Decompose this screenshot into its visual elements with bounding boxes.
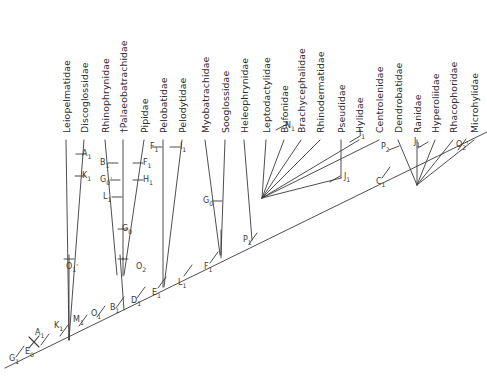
node-subscript: 0 (209, 200, 213, 207)
node-subscript: 1 (291, 125, 295, 132)
taxon-label-rhacophoridae: Rhacophoridae (449, 62, 458, 133)
taxon-label-leiopelmatidae: Leiopelmatidae (62, 60, 71, 133)
node-subscript: 1 (15, 358, 19, 365)
node-subscript: 2 (142, 266, 146, 273)
node-label-F1b: F1 (143, 159, 152, 167)
node-label-E1: E1 (152, 289, 161, 297)
taxon-label-leptodactylidae: Leptodactylidae (262, 57, 271, 133)
node-label-G0c: G0 (203, 197, 213, 205)
node-label-I1b: I1 (359, 130, 365, 138)
node-label-A1b: A1 (35, 329, 44, 337)
node-subscript: 1 (116, 307, 120, 314)
node-subscript: 1 (248, 239, 252, 246)
branch-pelodytidae (164, 140, 182, 287)
taxon-label-centrolenidae: Centrolenidae (375, 67, 384, 133)
node-label-N1: N1 (285, 122, 295, 130)
node-subscript: 1 (182, 282, 186, 289)
node-prime: ' (110, 176, 112, 184)
node-label-E0: E0 (25, 348, 34, 356)
taxon-label-hyperoliidae: Hyperoliidae (431, 73, 440, 133)
tree-branches (5, 124, 487, 368)
node-subscript: 1 (346, 176, 350, 183)
node-label-O1b: O1 (91, 310, 101, 318)
node-label-O1p: O1' (66, 263, 78, 271)
node-label-F1top: F1 (150, 143, 159, 151)
node-subscript: 1 (182, 146, 186, 153)
taxon-label-sooglossidae: Sooglossidae (221, 71, 230, 133)
node-label-O2v: O2 (136, 263, 146, 271)
node-subscript: 1 (137, 300, 141, 307)
branch-heleophrynidae (244, 140, 252, 240)
tick-P2 (389, 146, 399, 150)
branch-tickmarks (64, 124, 466, 259)
taxon-label-dendrobatidae: Dendrobatidae (394, 63, 403, 133)
taxon-label-microhylidae: Microhylidae (470, 73, 479, 133)
node-subscript: 1 (40, 332, 44, 339)
tick-F1c (210, 252, 218, 263)
node-label-D1: D1 (131, 297, 141, 305)
node-subscript: 1 (382, 181, 386, 188)
node-subscript: 2 (386, 146, 390, 153)
node-label-P1: P1 (243, 236, 252, 244)
branch-pipidae (124, 140, 144, 275)
node-prime: ' (76, 263, 78, 271)
node-subscript: 1 (107, 196, 111, 203)
taxon-label-palaeobatrachidae: †Palaeobatrachidae (119, 40, 128, 133)
branch-sooglossidae (221, 140, 225, 255)
taxon-label-pelodytidae: Pelodytidae (178, 78, 187, 133)
node-label-K1: K1 (82, 172, 91, 180)
node-label-J1a: J1 (344, 173, 350, 181)
tick-E0-cross (29, 336, 39, 348)
node-subscript: 0 (128, 228, 132, 235)
tick-C1 (382, 167, 390, 178)
branch-centrolenidae (262, 140, 379, 198)
taxon-label-ranidae: Ranidae (413, 95, 422, 133)
branch-dendrobatidae (398, 140, 417, 185)
taxon-label-heleophrynidae: Heleophrynidae (240, 58, 249, 133)
node-subscript: 1 (416, 141, 420, 148)
branch-hylidae (262, 140, 359, 198)
node-label-F1c: F1 (204, 263, 213, 271)
node-label-L1: L1 (103, 193, 111, 201)
node-label-O2p: O2' (456, 141, 468, 149)
taxon-label-pipidae: Pipidae (140, 99, 149, 134)
node-subscript: 1 (209, 266, 213, 273)
node-subscript: 1 (87, 153, 91, 160)
node-prime: ' (466, 141, 468, 149)
node-label-B1: B1 (100, 159, 109, 167)
tick-L1b (184, 265, 192, 276)
taxon-label-pseudidae: Pseudidae (337, 84, 346, 133)
node-subscript: 1 (106, 162, 110, 169)
node-label-K1b: K1 (54, 322, 63, 330)
node-label-C1: C1 (376, 178, 386, 186)
node-label-G1: G1 (9, 355, 19, 363)
branch-discoglossidae (69, 140, 84, 340)
node-label-A1: A1 (82, 150, 91, 158)
node-label-I1a: I1 (180, 143, 186, 151)
node-subscript: 1 (155, 146, 159, 153)
node-letter: M (73, 315, 80, 324)
node-label-P2: P2 (381, 143, 390, 151)
node-subscript: 1 (157, 292, 161, 299)
node-label-B1b: B1 (110, 304, 119, 312)
taxon-label-myobatrachidae: Myobatrachidae (201, 57, 210, 133)
node-subscript: 1 (97, 313, 101, 320)
node-label-H1: H1 (143, 176, 153, 184)
branch-rhacophoridae (417, 140, 453, 185)
node-subscript: 1 (80, 319, 84, 326)
node-subscript: 1 (59, 325, 63, 332)
node-subscript: 1 (148, 162, 152, 169)
taxon-label-rhinophrynidae: Rhinophrynidae (101, 58, 110, 133)
taxon-label-pelobatidae: Pelobatidae (159, 77, 168, 133)
taxon-label-rhinodermatidae: Rhinodermatidae (316, 51, 325, 133)
node-label-G0a: G0' (100, 176, 112, 184)
taxon-label-brachycephalidae: Brachycephalidae (297, 48, 306, 133)
node-label-G0b: G0 (122, 225, 132, 233)
node-label-M1: M1 (73, 316, 84, 324)
node-subscript: 1 (361, 133, 365, 140)
figure-canvas: LeiopelmatidaeDiscoglossidaeRhinophrynid… (0, 0, 487, 385)
node-subscript: 1 (87, 175, 91, 182)
node-subscript: 1 (149, 179, 153, 186)
node-label-L1b: L1 (178, 279, 186, 287)
taxon-label-discoglossidae: Discoglossidae (80, 62, 89, 133)
